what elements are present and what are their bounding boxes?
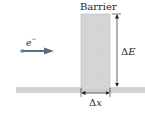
ground-surface xyxy=(16,87,145,93)
electron-charge: − xyxy=(31,35,36,42)
barrier-label: Barrier xyxy=(80,2,117,12)
energy-label: ΔE xyxy=(121,47,136,57)
electron-label: e− xyxy=(26,37,36,48)
width-variable: x xyxy=(96,97,102,108)
potential-barrier xyxy=(81,14,110,90)
energy-variable: E xyxy=(128,46,135,57)
width-label: Δx xyxy=(89,98,102,108)
arrowhead-icon xyxy=(44,48,54,55)
barrier-label-text: Barrier xyxy=(80,1,117,12)
